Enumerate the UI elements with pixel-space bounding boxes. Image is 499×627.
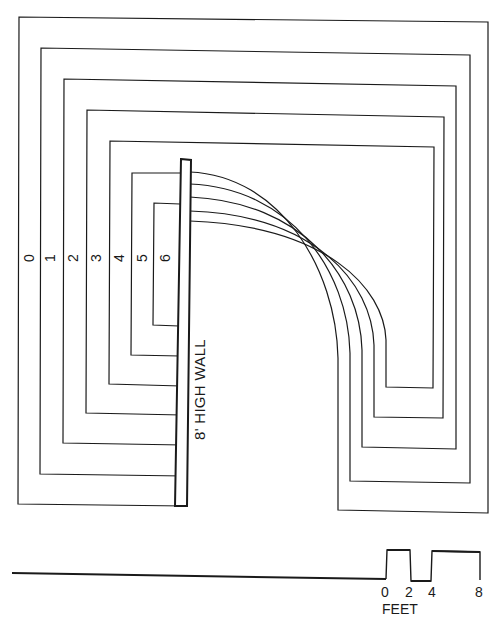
wall-label: 8' HIGH WALL <box>191 339 208 440</box>
wall <box>175 159 191 506</box>
scale-tick-8: 8 <box>475 584 483 600</box>
contour-6 <box>153 203 180 326</box>
contour-diagram: 0 1 2 3 4 5 6 8' HIGH WALL 0 2 4 8 FEET <box>0 0 499 627</box>
contour-label-5: 5 <box>134 254 150 262</box>
contour-5 <box>131 173 181 356</box>
contour-2 <box>63 79 456 449</box>
contour-label-4: 4 <box>111 254 127 262</box>
scale-tick-2: 2 <box>405 584 413 600</box>
contour-label-2: 2 <box>65 254 81 262</box>
scale-tick-4: 4 <box>428 584 436 600</box>
contour-3 <box>86 110 444 418</box>
contour-4 <box>109 141 434 388</box>
scale-tick-0: 0 <box>381 584 389 600</box>
contour-label-6: 6 <box>157 254 173 262</box>
contour-0 <box>18 17 488 513</box>
contour-label-3: 3 <box>88 254 104 262</box>
contour-label-1: 1 <box>42 254 58 262</box>
scale-unit-label: FEET <box>382 601 418 617</box>
scale-bar <box>12 550 480 581</box>
contour-label-0: 0 <box>21 254 37 262</box>
